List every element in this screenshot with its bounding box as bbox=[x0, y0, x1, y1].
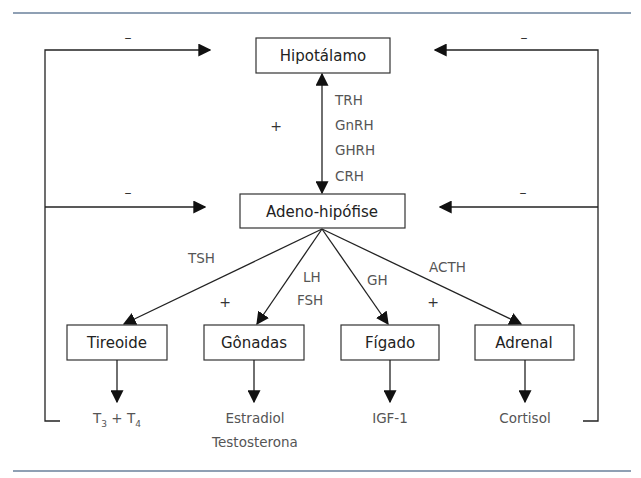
gh-label: GH bbox=[367, 272, 388, 288]
right-feedback-loop bbox=[435, 50, 598, 421]
hypothalamus-stimulation-sign: + bbox=[270, 118, 282, 134]
testosterone-label: Testosterona bbox=[211, 434, 298, 450]
top-left-feedback-sign: – bbox=[125, 29, 132, 45]
liver-node: Fígado bbox=[341, 325, 439, 360]
svg-text:Gônadas: Gônadas bbox=[221, 334, 287, 352]
adenohypophysis-node: Adeno-hipófise bbox=[240, 194, 405, 228]
top-right-feedback-sign: – bbox=[521, 29, 528, 45]
pituitary-output-arrows bbox=[124, 229, 521, 324]
product-arrows bbox=[117, 360, 525, 402]
estradiol-label: Estradiol bbox=[225, 410, 284, 426]
adrenal-node: Adrenal bbox=[475, 325, 574, 360]
igf1-label: IGF-1 bbox=[372, 410, 408, 426]
left-stimulation-sign: + bbox=[219, 294, 231, 310]
svg-text:Fígado: Fígado bbox=[365, 334, 415, 352]
svg-text:Tireoide: Tireoide bbox=[86, 334, 147, 352]
acth-label: ACTH bbox=[429, 259, 466, 275]
thyroid-node: Tireoide bbox=[67, 325, 167, 360]
svg-text:CRH: CRH bbox=[335, 168, 364, 184]
lh-label: LH bbox=[303, 269, 321, 285]
svg-text:TRH: TRH bbox=[334, 92, 363, 108]
svg-text:Adrenal: Adrenal bbox=[495, 334, 552, 352]
mid-right-feedback-sign: – bbox=[520, 184, 527, 200]
adenohypophysis-label: Adeno-hipófise bbox=[266, 203, 378, 221]
fsh-label: FSH bbox=[297, 292, 323, 308]
endocrine-axis-diagram: – – – – Hipotálamo TRH GnRH GHRH CRH + A… bbox=[0, 0, 641, 478]
hypothalamus-node: Hipotálamo bbox=[256, 38, 390, 73]
svg-text:GnRH: GnRH bbox=[335, 117, 374, 133]
svg-text:GHRH: GHRH bbox=[335, 142, 375, 158]
right-stimulation-sign: + bbox=[427, 294, 439, 310]
tsh-label: TSH bbox=[187, 250, 215, 266]
t3-t4-label: T3 + T4 bbox=[92, 410, 141, 429]
gonads-node: Gônadas bbox=[204, 325, 304, 360]
cortisol-label: Cortisol bbox=[499, 410, 550, 426]
mid-left-feedback-sign: – bbox=[125, 184, 132, 200]
left-feedback-loop bbox=[45, 50, 210, 421]
releasing-hormones: TRH GnRH GHRH CRH bbox=[334, 92, 375, 184]
hypothalamus-label: Hipotálamo bbox=[280, 47, 366, 65]
